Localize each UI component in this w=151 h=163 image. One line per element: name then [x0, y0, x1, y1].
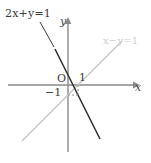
equation-dark-leader-line	[40, 22, 54, 47]
coordinate-graph-figure: 2x+y=1 x−y=1 y x O 1 −1	[0, 0, 151, 163]
x-tick-label-1: 1	[79, 72, 86, 83]
equation-label-2x-plus-y: 2x+y=1	[5, 8, 51, 19]
line-x-minus-y-equals-1	[22, 41, 122, 141]
x-axis-label: x	[135, 82, 141, 93]
y-tick-label-minus-1: −1	[45, 87, 61, 98]
y-axis-label: y	[60, 16, 66, 27]
graph-canvas	[0, 0, 151, 163]
equation-label-x-minus-y: x−y=1	[103, 36, 138, 46]
origin-label: O	[57, 73, 66, 84]
